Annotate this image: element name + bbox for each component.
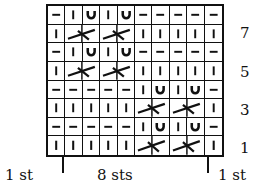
knit-stitch — [65, 6, 82, 25]
knit-stitch — [65, 136, 82, 155]
row-label-1: 1 — [240, 139, 250, 157]
right-edge-stitch-label: 1 st — [218, 166, 246, 184]
cable-cross-stitch — [100, 25, 135, 44]
purl-stitch — [48, 118, 65, 137]
cable-cross-stitch — [170, 136, 205, 155]
purl-stitch — [118, 81, 135, 100]
purl-stitch — [187, 43, 204, 62]
knit-stitch — [187, 25, 204, 44]
knit-stitch — [83, 136, 100, 155]
knit-stitch — [48, 25, 65, 44]
left-edge-stitch-label: 1 st — [5, 166, 33, 184]
yo-stitch — [152, 118, 169, 137]
cable-cross-stitch — [100, 62, 135, 81]
knit-stitch — [135, 62, 152, 81]
knit-stitch — [170, 81, 187, 100]
row-label-7: 7 — [240, 24, 250, 42]
purl-stitch — [170, 43, 187, 62]
knit-stitch — [152, 25, 169, 44]
right-repeat-divider — [207, 155, 209, 173]
yo-stitch — [187, 81, 204, 100]
knit-stitch — [152, 62, 169, 81]
purl-stitch — [118, 118, 135, 137]
knit-stitch — [48, 99, 65, 118]
purl-stitch — [65, 81, 82, 100]
purl-stitch — [205, 43, 222, 62]
yo-stitch — [83, 43, 100, 62]
cable-cross-stitch — [65, 25, 100, 44]
knit-stitch — [48, 62, 65, 81]
purl-stitch — [152, 6, 169, 25]
purl-stitch — [100, 81, 117, 100]
purl-stitch — [83, 118, 100, 137]
cable-cross-stitch — [170, 99, 205, 118]
repeat-width-label: 8 sts — [97, 166, 133, 184]
knit-stitch — [65, 99, 82, 118]
knit-stitch — [83, 99, 100, 118]
knit-stitch — [100, 136, 117, 155]
purl-stitch — [205, 6, 222, 25]
knit-stitch — [170, 62, 187, 81]
purl-stitch — [48, 6, 65, 25]
knit-stitch — [187, 62, 204, 81]
knitting-chart-grid — [46, 4, 224, 157]
purl-stitch — [100, 118, 117, 137]
purl-stitch — [187, 6, 204, 25]
knit-stitch — [65, 43, 82, 62]
purl-stitch — [152, 43, 169, 62]
purl-stitch — [83, 81, 100, 100]
row-label-5: 5 — [240, 63, 250, 81]
row-label-3: 3 — [240, 101, 250, 119]
cable-cross-stitch — [135, 136, 170, 155]
purl-stitch — [65, 118, 82, 137]
knit-stitch — [100, 6, 117, 25]
purl-stitch — [48, 43, 65, 62]
cable-cross-stitch — [135, 99, 170, 118]
knit-stitch — [100, 99, 117, 118]
left-repeat-divider — [62, 155, 64, 173]
knit-stitch — [48, 136, 65, 155]
knit-stitch — [205, 99, 222, 118]
cable-cross-stitch — [65, 62, 100, 81]
knit-stitch — [118, 99, 135, 118]
yo-stitch — [118, 43, 135, 62]
yo-stitch — [83, 6, 100, 25]
knit-stitch — [205, 62, 222, 81]
purl-stitch — [205, 81, 222, 100]
purl-stitch — [48, 81, 65, 100]
purl-stitch — [135, 43, 152, 62]
knit-stitch — [170, 25, 187, 44]
purl-stitch — [205, 118, 222, 137]
knit-stitch — [135, 118, 152, 137]
knit-stitch — [205, 136, 222, 155]
knit-stitch — [100, 43, 117, 62]
knit-stitch — [170, 118, 187, 137]
knit-stitch — [205, 25, 222, 44]
purl-stitch — [135, 6, 152, 25]
yo-stitch — [118, 6, 135, 25]
purl-stitch — [170, 6, 187, 25]
yo-stitch — [187, 118, 204, 137]
yo-stitch — [152, 81, 169, 100]
knit-stitch — [135, 25, 152, 44]
knit-stitch — [118, 136, 135, 155]
knit-stitch — [135, 81, 152, 100]
